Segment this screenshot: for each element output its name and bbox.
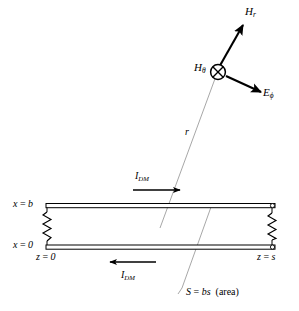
left-resistor [43, 212, 51, 241]
label-h-r: Hr [245, 6, 256, 19]
area-leader-line [178, 207, 211, 294]
right-resistor [268, 213, 276, 240]
field-vector-triad [211, 25, 261, 92]
diagram-vector-layer [0, 0, 299, 311]
bottom-conductor-bar [46, 245, 275, 249]
figure-canvas: Hr Hθ Eϕ r IDM IDM x = b x = 0 z = 0 z =… [0, 0, 299, 311]
label-z-equals-s: z = s [257, 252, 275, 262]
label-x-equals-0: x = 0 [13, 240, 33, 250]
label-x-equals-b: x = b [13, 199, 33, 209]
terminal-top-right [270, 204, 274, 208]
label-h-theta: Hθ [194, 62, 206, 75]
terminal-bottom-right [270, 245, 274, 249]
label-z-equals-0: z = 0 [36, 252, 56, 262]
h-r-arrow [218, 25, 243, 69]
label-i-dm-top: IDM [135, 171, 149, 183]
label-ray-r: r [185, 127, 189, 137]
transmission-line-structure [43, 204, 276, 250]
e-phi-arrow [226, 76, 261, 92]
current-arrows [110, 190, 180, 262]
label-i-dm-bottom: IDM [121, 270, 135, 282]
top-conductor-bar [46, 204, 275, 208]
h-theta-into-page-icon [211, 65, 226, 80]
label-e-phi: Eϕ [263, 87, 274, 100]
label-area-note: S = bs (area) [186, 287, 239, 297]
